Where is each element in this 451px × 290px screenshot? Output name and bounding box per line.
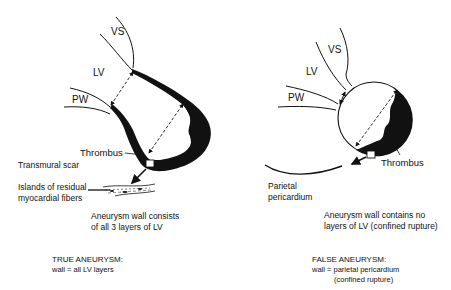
true-aneurysm-caption-body: wall = all LV layers [52, 266, 114, 274]
false-aneurysm-caption-body: wall = parietal pericardium [312, 266, 399, 274]
false-description-line2: layers of LV (confined rupture) [324, 222, 438, 231]
label-vs-false: VS [328, 45, 341, 55]
posterior-wall-inner [64, 107, 110, 114]
lv-diameter-arrow-upper [111, 72, 133, 105]
label-parietal-line1: Parietal [268, 182, 297, 191]
label-parietal-line2: pericardium [268, 193, 312, 202]
ventricular-septum-inner [100, 34, 132, 70]
diagram-artwork [0, 0, 451, 290]
parietal-pericardium-line [265, 165, 342, 174]
sample-arrow [132, 169, 146, 183]
label-transmural-scar: Transmural scar [18, 161, 79, 170]
label-vs-true: VS [111, 27, 124, 37]
wall-sample-box-right [367, 151, 375, 158]
posterior-wall-inner-right [278, 106, 336, 110]
label-islands-line2: myocardial fibers [18, 194, 82, 203]
thrombus-mass [150, 104, 207, 165]
ventricular-septum-outline [116, 17, 134, 68]
sample-arrow-right [352, 157, 366, 164]
label-thrombus-false: Thrombus [381, 158, 424, 168]
label-lv-false: LV [306, 67, 318, 77]
ventricular-septum-outline-right [340, 28, 352, 86]
true-aneurysm-figure [64, 17, 211, 196]
wall-histology-strip [103, 184, 155, 196]
label-pw-false: PW [288, 93, 304, 103]
false-aneurysm-caption-title: FALSE ANEURYSM: [312, 256, 386, 264]
false-description-line1: Aneurysm wall contains no [324, 211, 425, 220]
label-pw-true: PW [72, 95, 88, 105]
true-description-line2: of all 3 layers of LV [91, 223, 163, 232]
true-description-line1: Aneurysm wall consists [91, 212, 179, 221]
label-islands-line1: Islands of residual [18, 183, 87, 192]
false-aneurysm-caption-body2: (confined rupture) [334, 276, 393, 284]
lv-diameter-arrow-lower [149, 104, 183, 153]
label-lv-true: LV [93, 68, 105, 78]
label-thrombus-true: Thrombus [80, 148, 123, 158]
true-aneurysm-caption-title: TRUE ANEURYSM: [52, 256, 123, 264]
wall-sample-box [146, 160, 154, 167]
